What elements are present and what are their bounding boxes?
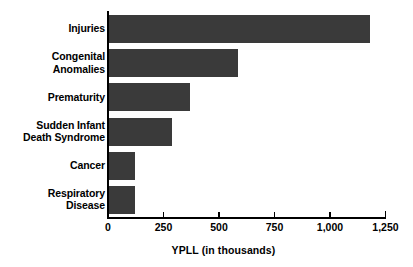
- bar-prematurity[interactable]: [108, 83, 190, 111]
- x-tick-label-250: 250: [155, 221, 173, 233]
- category-label-prematurity: Prematurity: [48, 91, 105, 104]
- category-label-cancer: Cancer: [70, 159, 105, 172]
- plot-area: Injuries Congenital Anomalies Prematurit…: [0, 0, 413, 267]
- x-tick-0: [107, 211, 108, 218]
- x-axis-line: [107, 217, 386, 219]
- x-tick-1250: [385, 211, 386, 218]
- category-label-respiratory-disease: Respiratory Disease: [48, 187, 105, 212]
- x-tick-label-750: 750: [266, 221, 284, 233]
- bar-respiratory-disease[interactable]: [108, 186, 135, 214]
- x-tick-label-1000: 1,000: [317, 221, 343, 233]
- x-tick-750: [274, 212, 275, 218]
- x-tick-250: [163, 212, 164, 218]
- chart-container: Injuries Congenital Anomalies Prematurit…: [0, 0, 413, 267]
- bar-sudden-infant-death-syndrome[interactable]: [108, 118, 172, 146]
- bar-injuries[interactable]: [108, 15, 370, 43]
- x-tick-500: [218, 212, 219, 218]
- x-tick-label-500: 500: [210, 221, 228, 233]
- x-tick-label-0: 0: [105, 221, 111, 233]
- x-axis-title-text: YPLL (in thousands): [172, 244, 276, 256]
- category-label-sudden-infant-death-syndrome: Sudden Infant Death Syndrome: [23, 119, 105, 144]
- category-label-injuries: Injuries: [68, 22, 105, 35]
- bar-congenital-anomalies[interactable]: [108, 49, 238, 77]
- category-label-congenital-anomalies: Congenital Anomalies: [52, 50, 105, 75]
- y-axis-line: [107, 11, 109, 218]
- bar-cancer[interactable]: [108, 152, 135, 180]
- x-axis-title: YPLL (in thousands): [0, 244, 413, 256]
- x-tick-1000: [329, 212, 330, 218]
- x-tick-label-1250: 1,250: [372, 221, 398, 233]
